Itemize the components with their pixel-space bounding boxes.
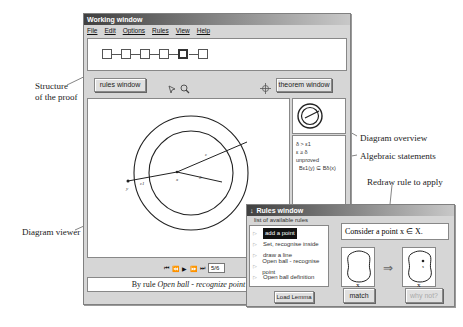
statement-status: unproved bbox=[296, 156, 342, 164]
rules-window-title: Rules window bbox=[257, 206, 304, 215]
playback-controls: ⏮ ⏪ ▶ ⏩ ⏭ 5/6 bbox=[164, 263, 225, 273]
rule-before-diagram: X bbox=[341, 247, 375, 287]
proof-edge bbox=[112, 54, 121, 55]
statement-goal: Bε1(y) ⊆ Bδ(x) bbox=[296, 164, 342, 172]
step-field[interactable]: 5/6 bbox=[208, 263, 225, 273]
expand-icon: ▷ bbox=[253, 272, 259, 283]
last-step-icon[interactable]: ⏭ bbox=[200, 265, 205, 272]
rules-window-button[interactable]: rules window bbox=[94, 78, 146, 92]
menu-bar: File Edit Options Rules View Help bbox=[84, 25, 350, 36]
move-tool-icon[interactable] bbox=[260, 80, 271, 91]
menu-view[interactable]: View bbox=[176, 27, 190, 34]
menu-help[interactable]: Help bbox=[197, 27, 210, 34]
menu-file[interactable]: File bbox=[87, 27, 97, 34]
svg-text:x: x bbox=[422, 264, 424, 269]
proof-node-3[interactable] bbox=[140, 49, 150, 59]
zoom-tool-icon[interactable] bbox=[180, 80, 190, 90]
rule-item-set-recognise[interactable]: ▷Set, recognise inside bbox=[253, 239, 325, 250]
statement: δ > ε1 bbox=[296, 140, 342, 148]
load-lemma-button[interactable]: Load Lemma bbox=[274, 291, 314, 303]
svg-text:ε1: ε1 bbox=[140, 181, 144, 186]
diagram-overview[interactable] bbox=[292, 98, 346, 134]
rule-item-open-ball-definition[interactable]: ▷Open ball definition bbox=[253, 272, 325, 283]
rule-item-open-ball-recognise[interactable]: ▷Open ball - recognise point bbox=[253, 261, 325, 272]
proof-node-5[interactable] bbox=[178, 49, 188, 59]
working-window-title: Working window bbox=[84, 14, 350, 25]
proof-node-4[interactable] bbox=[159, 49, 169, 59]
menu-rules[interactable]: Rules bbox=[152, 27, 169, 34]
play-icon[interactable]: ▶ bbox=[182, 265, 187, 272]
theorem-window-button[interactable]: theorem window bbox=[276, 78, 332, 92]
match-button[interactable]: match bbox=[343, 288, 375, 303]
proof-node-2[interactable] bbox=[121, 49, 131, 59]
overview-thumbnail bbox=[293, 99, 347, 135]
rule-item-add-point[interactable]: ▷add a point bbox=[253, 228, 325, 239]
first-step-icon[interactable]: ⏮ bbox=[164, 265, 169, 272]
proof-structure bbox=[87, 38, 347, 71]
pointer-tool-icon[interactable] bbox=[167, 80, 177, 90]
why-not-button[interactable]: why not? bbox=[405, 288, 443, 303]
caption-rule: Open ball - recognize point bbox=[158, 280, 246, 289]
expand-icon: ▷ bbox=[253, 239, 259, 250]
svg-text:x: x bbox=[175, 177, 179, 182]
caption-prefix: By rule bbox=[132, 280, 158, 289]
proof-edge bbox=[189, 54, 198, 55]
rules-list-header: list of available rules bbox=[254, 217, 308, 223]
rules-window-titlebar: ↓ Rules window bbox=[247, 205, 454, 216]
menu-options[interactable]: Options bbox=[123, 27, 145, 34]
svg-text:ε: ε bbox=[205, 152, 207, 157]
menu-edit[interactable]: Edit bbox=[104, 27, 115, 34]
expand-icon: ▷ bbox=[253, 250, 259, 261]
statement: ε ≥ δ bbox=[296, 148, 342, 156]
expand-icon: ▷ bbox=[253, 228, 259, 239]
rules-window: ↓ Rules window list of available rules ▷… bbox=[246, 204, 455, 307]
transform-arrow-icon: ⇒ bbox=[383, 261, 393, 275]
proof-edge bbox=[131, 54, 140, 55]
rules-list: ▷add a point ▷Set, recognise inside ▷dra… bbox=[249, 225, 329, 287]
proof-node-6[interactable] bbox=[198, 49, 208, 59]
expand-icon: ▷ bbox=[253, 261, 258, 272]
proof-edge bbox=[169, 54, 178, 55]
window-icon: ↓ bbox=[250, 206, 254, 215]
prev-step-icon[interactable]: ⏪ bbox=[172, 265, 179, 272]
rule-after-diagram: xX bbox=[402, 247, 436, 287]
svg-text:y: y bbox=[125, 186, 129, 191]
proof-node-1[interactable] bbox=[102, 49, 112, 59]
next-step-icon[interactable]: ⏩ bbox=[190, 265, 197, 272]
proof-edge bbox=[150, 54, 159, 55]
rule-description: Consider a point x ∈ X. bbox=[341, 223, 449, 240]
